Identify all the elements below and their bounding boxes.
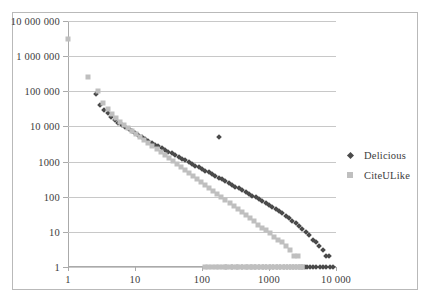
- y-axis-line: [68, 21, 69, 267]
- plot-area: 10 000 0001 000 000100 00010 00010001001…: [68, 21, 336, 267]
- y-tick-label: 100 000: [24, 86, 60, 97]
- legend-item-citeulike[interactable]: CiteULike: [343, 167, 410, 183]
- y-tick: [63, 197, 68, 198]
- data-point-delicious: [320, 247, 326, 253]
- y-tick-label: 10 000 000: [11, 16, 60, 27]
- y-tick: [63, 21, 68, 22]
- data-point-citeulike: [288, 248, 293, 253]
- data-point-citeulike: [300, 265, 305, 270]
- x-tick: [135, 267, 136, 271]
- y-tick-label: 10: [49, 226, 60, 237]
- gridline: [68, 21, 336, 22]
- data-point-citeulike: [95, 88, 100, 93]
- y-tick-label: 10 000: [30, 121, 60, 132]
- gridline: [68, 197, 336, 198]
- y-tick: [63, 162, 68, 163]
- gridline: [68, 162, 336, 163]
- gridline: [68, 91, 336, 92]
- x-tick-label: 100: [194, 274, 210, 285]
- diamond-marker-icon: [343, 153, 357, 158]
- x-tick: [68, 267, 69, 271]
- x-tick-label: 10 000: [321, 274, 351, 285]
- chart-figure: 10 000 0001 000 000100 00010 00010001001…: [12, 12, 418, 290]
- y-tick-label: 1 000 000: [16, 51, 60, 62]
- data-point-citeulike: [100, 101, 105, 106]
- x-tick-label: 10: [130, 274, 141, 285]
- y-tick: [63, 56, 68, 57]
- gridline: [68, 232, 336, 233]
- y-tick-label: 1: [55, 262, 60, 273]
- x-tick: [336, 267, 337, 271]
- gridline: [68, 56, 336, 57]
- data-point-citeulike: [86, 74, 91, 79]
- data-point-delicious: [326, 254, 332, 260]
- square-marker-icon: [343, 172, 357, 178]
- legend-label: CiteULike: [364, 170, 410, 181]
- gridline: [68, 126, 336, 127]
- y-tick: [63, 126, 68, 127]
- y-tick: [63, 91, 68, 92]
- legend-label: Delicious: [364, 150, 406, 161]
- y-tick-label: 100: [44, 191, 60, 202]
- data-point-citeulike: [66, 37, 71, 42]
- chart-legend: Delicious CiteULike: [343, 147, 410, 187]
- data-point-citeulike: [296, 254, 301, 259]
- y-tick-label: 1000: [38, 156, 60, 167]
- legend-item-delicious[interactable]: Delicious: [343, 147, 410, 163]
- x-tick-label: 1000: [258, 274, 280, 285]
- data-point-delicious: [216, 134, 222, 140]
- y-tick: [63, 232, 68, 233]
- x-tick-label: 1: [65, 274, 70, 285]
